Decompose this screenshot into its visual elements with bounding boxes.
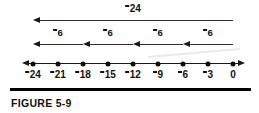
tick-minus-24-label: 24 bbox=[25, 69, 41, 80]
negative-bar bbox=[50, 71, 54, 73]
figure-caption: FIGURE 5-9 bbox=[11, 97, 72, 109]
tick-minus-9-label: 9 bbox=[153, 69, 163, 80]
tick-minus-3-label: 3 bbox=[203, 69, 213, 80]
tick-minus-15-label: 15 bbox=[100, 69, 116, 80]
negative-bar bbox=[203, 71, 207, 73]
tick-minus-6-label: 6 bbox=[178, 69, 188, 80]
negative-bar bbox=[178, 71, 182, 73]
negative-bar bbox=[100, 71, 104, 73]
tick-minus-21-label: 21 bbox=[50, 69, 66, 80]
tick-minus-12-label: 12 bbox=[125, 69, 141, 80]
caption-rule bbox=[10, 88, 251, 91]
negative-bar bbox=[25, 71, 29, 73]
negative-bar bbox=[75, 71, 79, 73]
tick-zero-label: 0 bbox=[230, 69, 236, 80]
negative-bar bbox=[153, 71, 157, 73]
figure-5-9: 24 6666 24211815129630 FIGURE 5-9 bbox=[0, 0, 259, 113]
tick-minus-18-label: 18 bbox=[75, 69, 91, 80]
negative-bar bbox=[125, 71, 129, 73]
